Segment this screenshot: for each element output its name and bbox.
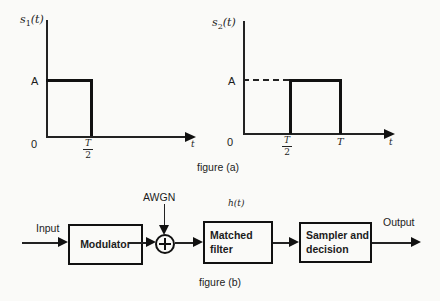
plot2-amplitude-label: A: [228, 75, 235, 87]
plot1-tick-T-over-2: T 2: [83, 139, 93, 160]
plot1-pulse-top: [46, 79, 93, 82]
modulator-label: Modulator: [80, 238, 131, 252]
input-arrow-icon: [58, 237, 68, 247]
plot1-origin-label: 0: [31, 138, 37, 150]
plot2-ylabel: s2(t): [212, 16, 236, 31]
plot2-pulse-falling-edge: [339, 79, 342, 134]
awgn-arrow-line: [164, 204, 166, 226]
figure-a-caption: figure (a): [197, 161, 239, 173]
plot1-x-axis: [46, 136, 186, 138]
impulse-response-label: h(t): [228, 198, 244, 208]
modulator-to-sum-line: [128, 242, 147, 244]
summing-junction: [155, 234, 175, 254]
input-arrow-line: [22, 242, 59, 244]
plot2-y-axis: [243, 21, 245, 134]
plot2-dashed-guide: [243, 79, 289, 81]
matched-filter-block: Matched filter: [203, 221, 273, 264]
plot2-tick-T: T: [337, 136, 344, 147]
sum-to-filter-line: [175, 242, 194, 244]
plot2-xlabel: t: [389, 137, 393, 147]
plot1-tick-denominator: 2: [85, 150, 91, 160]
output-arrow-line: [372, 242, 412, 244]
sampler-label: Sampler and decision: [306, 229, 370, 256]
filter-to-sampler-line: [273, 242, 290, 244]
plot2-tick-numerator: T: [282, 136, 292, 147]
plot2-tick-T-over-2: T 2: [282, 136, 292, 157]
figure-page: s1(t) t A 0 T 2 s2(t) t A 0 T 2 T figure…: [0, 0, 440, 301]
plot1-pulse-falling-edge: [90, 79, 93, 136]
plot2-x-axis: [243, 133, 385, 135]
filter-to-sampler-arrow-icon: [289, 237, 299, 247]
awgn-label: AWGN: [143, 191, 175, 203]
plus-icon-vertical: [164, 238, 166, 250]
plot1-tick-numerator: T: [83, 139, 93, 150]
output-arrow-icon: [411, 237, 421, 247]
plot2-ylabel-rest: (t): [223, 16, 236, 29]
plot2-pulse-top: [289, 79, 342, 82]
plot1-ylabel: s1(t): [20, 13, 44, 28]
plot2-origin-label: 0: [227, 136, 233, 148]
sampler-block: Sampler and decision: [299, 222, 372, 263]
plot2-pulse-rising-edge: [289, 79, 292, 134]
plot1-xlabel: t: [191, 139, 195, 149]
plot1-amplitude-label: A: [31, 75, 38, 87]
sum-to-filter-arrow-icon: [193, 237, 203, 247]
matched-filter-label: Matched filter: [210, 229, 271, 256]
modulator-block: Modulator: [68, 224, 143, 265]
output-label: Output: [383, 216, 415, 228]
figure-b-caption: figure (b): [199, 276, 241, 288]
plot2-tick-denominator: 2: [284, 147, 290, 157]
plot1-ylabel-rest: (t): [31, 13, 44, 26]
input-label: Input: [36, 222, 59, 234]
